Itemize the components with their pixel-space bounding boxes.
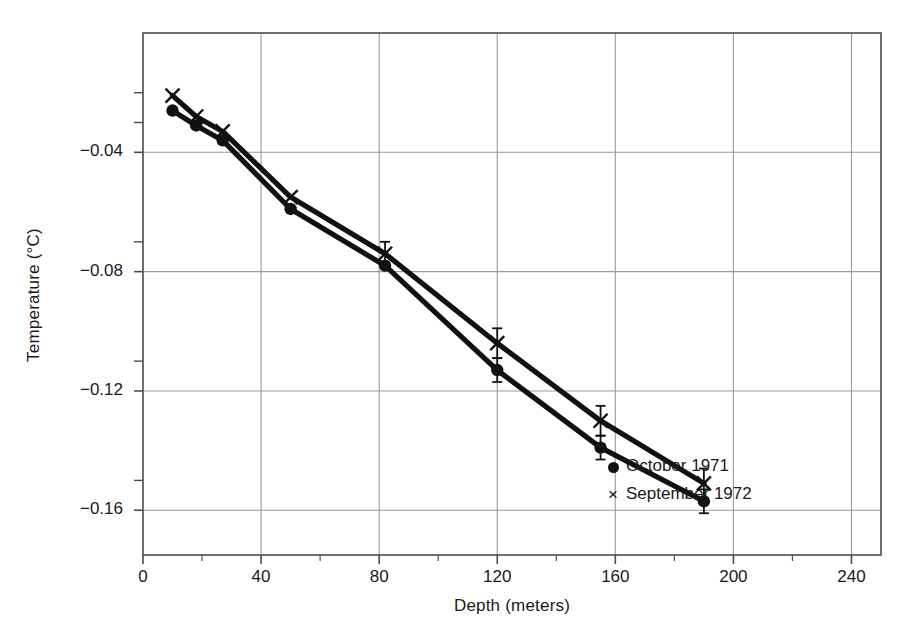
filled-circle-icon [608, 462, 619, 473]
data-point-october-1971 [284, 203, 296, 215]
x-tick-label: 200 [693, 567, 773, 587]
chart-legend: October 1971×September 1972 [600, 452, 752, 508]
legend-marker-circle-icon [600, 458, 626, 475]
y-tick-label: −0.04 [3, 141, 123, 161]
y-axis-title: Temperature (°C) [24, 175, 44, 415]
series-line-october-1971 [173, 111, 704, 502]
legend-entry: ×September 1972 [600, 480, 752, 508]
legend-label: September 1972 [626, 484, 752, 504]
x-axis-title: Depth (meters) [143, 596, 881, 616]
gridlines [143, 33, 881, 555]
chart-figure: −0.04−0.08−0.12−0.16 04080120160200240 T… [0, 0, 923, 628]
data-point-october-1971 [166, 104, 178, 116]
y-tick-label: −0.08 [3, 261, 123, 281]
data-point-october-1971 [491, 364, 503, 376]
x-tick-label: 80 [339, 567, 419, 587]
legend-marker-cross-icon: × [600, 486, 626, 503]
y-tick-label: −0.12 [3, 380, 123, 400]
plot-frame [143, 33, 881, 555]
plot-canvas [0, 0, 923, 628]
series-line-september-1972 [173, 96, 704, 484]
x-tick-label: 120 [457, 567, 537, 587]
legend-label: October 1971 [626, 456, 729, 476]
legend-entry: October 1971 [600, 452, 752, 480]
x-tick-label: 0 [103, 567, 183, 587]
data-point-september-1972 [166, 89, 180, 103]
x-tick-label: 240 [811, 567, 891, 587]
y-tick-label: −0.16 [3, 499, 123, 519]
series-trend-lines [173, 96, 704, 502]
x-tick-label: 40 [221, 567, 301, 587]
x-tick-label: 160 [575, 567, 655, 587]
